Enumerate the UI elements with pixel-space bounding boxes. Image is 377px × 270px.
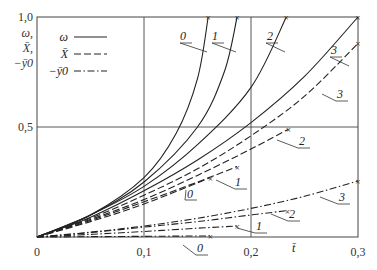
end-marker: × <box>234 223 240 231</box>
curve-label-leader <box>266 43 285 52</box>
y-axis-label-line: ω, <box>22 26 33 40</box>
curve-label: 2 <box>289 207 295 221</box>
curve-label-leader <box>212 43 236 52</box>
curve-label: 1 <box>212 29 218 43</box>
x-tick-label: 0,2 <box>244 245 259 259</box>
y-axis-label-line: −ȳ0 <box>14 56 33 70</box>
legend-label: X̄ <box>60 47 69 61</box>
curve-label-leader <box>322 94 348 101</box>
curve-label: 0 <box>180 29 186 43</box>
legend-label: ω <box>60 30 68 44</box>
curve-label-leader <box>216 180 247 189</box>
curve-label-leader <box>320 197 350 204</box>
end-marker: × <box>286 126 292 134</box>
x-tick-label: 0,3 <box>351 245 366 259</box>
curve-label: 3 <box>338 190 345 204</box>
curve-label-leader <box>277 140 310 148</box>
curve-label: 2 <box>267 29 273 43</box>
y-axis-label-line: X̄, <box>22 41 33 55</box>
curve-label: 3 <box>336 87 343 101</box>
curve-label: 1 <box>256 219 262 233</box>
curve-label: 3 <box>330 43 337 57</box>
series-line-dashed-3 <box>37 43 358 237</box>
end-marker: × <box>234 14 240 22</box>
end-marker: × <box>355 14 361 22</box>
end-marker: × <box>355 178 361 186</box>
x-tick-label: 0,1 <box>137 245 152 259</box>
y-tick-label: 0,5 <box>18 120 33 134</box>
curve-label: 1 <box>235 175 241 189</box>
curve-label-leader <box>183 245 208 255</box>
legend: ωX̄−ȳ0 <box>49 30 107 78</box>
y-tick-label: 1,0 <box>18 10 33 24</box>
curve-label-leader <box>330 57 349 66</box>
end-marker: × <box>355 40 361 48</box>
curve-label: 2 <box>299 134 305 148</box>
end-marker: × <box>234 164 240 172</box>
x-axis-label: t̄ <box>292 241 296 255</box>
curve-label-leader <box>180 43 207 52</box>
legend-label: −ȳ0 <box>49 64 68 78</box>
y-axis-label: ω,X̄,−ȳ0 <box>14 26 33 70</box>
end-marker: × <box>205 14 211 22</box>
curve-label-leader <box>237 228 267 233</box>
series-line-dashdot-3 <box>37 181 358 237</box>
x-tick-label: 0 <box>34 245 40 259</box>
curve-label: 0 <box>187 187 193 201</box>
end-marker: × <box>207 233 213 241</box>
chart: ×××××××××××× 012332103210 00,10,20,30,51… <box>0 0 377 270</box>
end-marker: × <box>283 14 289 22</box>
curve-label: 0 <box>197 241 203 255</box>
